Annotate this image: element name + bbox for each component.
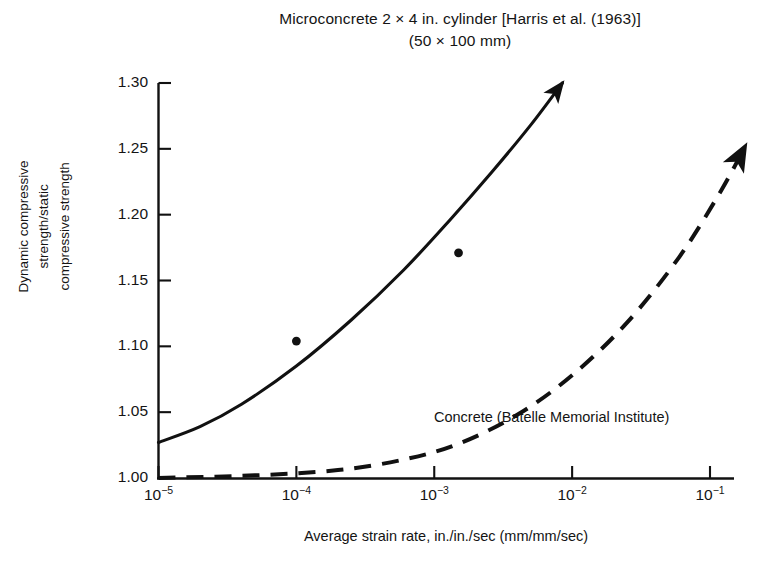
data-point-1 [292,337,301,346]
x-axis-ticks [159,466,711,478]
axes [157,83,734,479]
series-line-microconcrete [159,83,563,442]
plot-area [0,0,768,575]
data-series-group [159,83,746,478]
chart-figure: Microconcrete 2 × 4 in. cylinder [Harris… [0,0,768,575]
data-point-2 [454,248,463,257]
y-axis-ticks [159,83,172,478]
series-line-concrete-batelle [159,146,746,478]
